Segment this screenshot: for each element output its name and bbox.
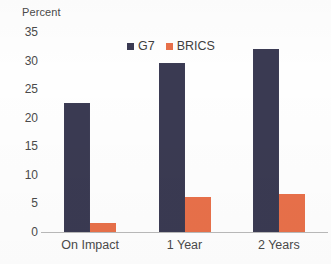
x-axis-tick-2: 2 Years — [258, 238, 300, 252]
y-axis-tick-20: 20 — [4, 112, 38, 124]
y-axis-tick-25: 25 — [4, 83, 38, 95]
y-axis-tick-labels: 05101520253035 — [0, 0, 38, 264]
x-axis-tick-0: On Impact — [61, 238, 119, 252]
y-axis-tick-30: 30 — [4, 55, 38, 67]
bar-g7-0 — [64, 103, 90, 232]
y-axis-tick-0: 0 — [4, 226, 38, 238]
y-axis-tick-15: 15 — [4, 140, 38, 152]
y-axis-tick-35: 35 — [4, 26, 38, 38]
bar-group-0 — [64, 32, 116, 232]
bar-brics-2 — [279, 194, 305, 232]
plot-area — [43, 32, 326, 232]
y-axis-tick-10: 10 — [4, 169, 38, 181]
bar-g7-2 — [253, 49, 279, 232]
bar-group-1 — [159, 32, 211, 232]
x-axis-tick-labels: On Impact1 Year2 Years — [43, 238, 326, 260]
x-axis-baseline — [41, 232, 328, 233]
bar-chart: Percent 05101520253035 G7 BRICS On Impac… — [0, 0, 331, 264]
bar-brics-0 — [90, 223, 116, 232]
y-axis-tick-5: 5 — [4, 197, 38, 209]
bar-group-2 — [253, 32, 305, 232]
x-axis-tick-1: 1 Year — [167, 238, 202, 252]
bar-g7-1 — [159, 63, 185, 232]
bar-brics-1 — [185, 197, 211, 232]
